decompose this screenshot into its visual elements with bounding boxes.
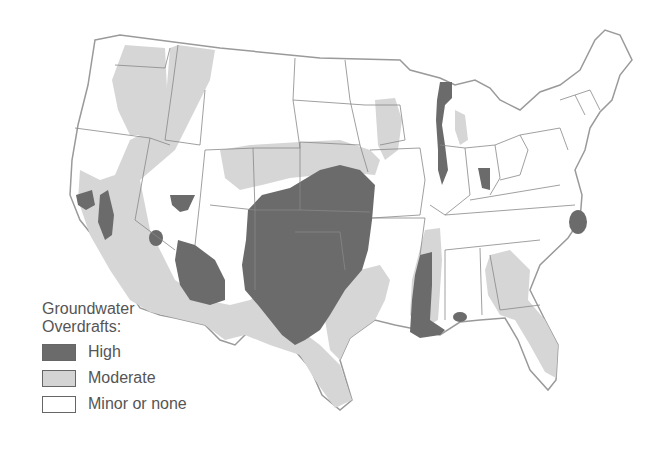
moderate-swatch: [42, 370, 76, 387]
high-swatch: [42, 344, 76, 361]
legend-item-moderate: Moderate: [42, 368, 187, 388]
legend-title-line1: Groundwater: [42, 300, 187, 318]
legend-item-minor: Minor or none: [42, 394, 187, 414]
legend: Groundwater Overdrafts: High Moderate Mi…: [42, 300, 187, 414]
legend-item-high: High: [42, 342, 187, 362]
legend-label-minor: Minor or none: [88, 395, 187, 413]
minor-swatch: [42, 396, 76, 413]
legend-label-moderate: Moderate: [88, 369, 156, 387]
legend-title-line2: Overdrafts:: [42, 318, 187, 336]
legend-label-high: High: [88, 343, 121, 361]
